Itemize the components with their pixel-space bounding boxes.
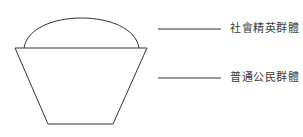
citizen-trapezoid-shape bbox=[15, 48, 147, 124]
elite-citizen-diagram bbox=[0, 0, 303, 137]
citizen-group-label: 普通公民群體 bbox=[230, 71, 299, 84]
elite-dome-shape bbox=[24, 18, 139, 48]
elite-group-label: 社會精英群體 bbox=[230, 22, 299, 35]
